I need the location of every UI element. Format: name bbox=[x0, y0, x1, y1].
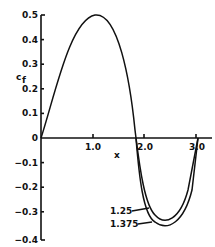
chart: 0.5 0.4 0.3 0.2 0.1 0 −0.1 −0.2 −0.3 −0.… bbox=[0, 0, 215, 247]
y-tick-0.1: 0.1 bbox=[22, 108, 38, 118]
y-tick-neg-0.4: −0.4 bbox=[15, 235, 38, 245]
series-label-1.375: 1.375 bbox=[110, 219, 138, 229]
x-tick-2.0: 2.0 bbox=[137, 142, 153, 152]
y-tick-0.2: 0.2 bbox=[22, 84, 38, 94]
y-tick-neg-0.3: −0.3 bbox=[15, 207, 38, 217]
x-tick-1.0: 1.0 bbox=[85, 142, 101, 152]
y-tick-0: 0 bbox=[32, 133, 38, 143]
y-tick-0.4: 0.4 bbox=[22, 35, 38, 45]
curve-1.25 bbox=[41, 15, 198, 220]
series-label-1.25: 1.25 bbox=[110, 206, 132, 216]
y-tick-neg-0.1: −0.1 bbox=[15, 158, 38, 168]
y-tick-labels: 0.5 0.4 0.3 0.2 0.1 0 −0.1 −0.2 −0.3 −0.… bbox=[15, 10, 38, 245]
y-axis-label-subscript: f bbox=[22, 75, 26, 85]
y-tick-neg-0.2: −0.2 bbox=[15, 182, 38, 192]
x-tick-labels: 1.0 2.0 3.0 bbox=[85, 142, 205, 152]
x-axis-label: x bbox=[114, 150, 120, 160]
y-tick-0.5: 0.5 bbox=[22, 10, 38, 20]
y-axis-label: c bbox=[16, 72, 21, 82]
y-tick-0.3: 0.3 bbox=[22, 59, 38, 69]
leader-line-1.375 bbox=[138, 222, 152, 224]
